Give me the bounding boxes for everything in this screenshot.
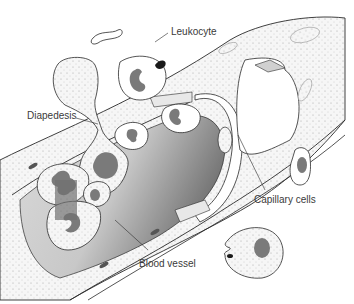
- floating-fragment: [91, 30, 122, 45]
- leader-leukocyte: [155, 33, 168, 42]
- leukocyte-bottom-right: [224, 228, 283, 279]
- lumen-dark-band: [55, 180, 77, 220]
- label-diapedesis: Diapedesis: [27, 110, 76, 121]
- leukocyte-lumen-2: [115, 122, 148, 149]
- leukocyte-free: [118, 56, 166, 100]
- label-leukocyte: Leukocyte: [171, 26, 217, 37]
- capillary-cell-nucleus: [218, 127, 232, 153]
- label-capillary-cells: Capillary cells: [254, 194, 316, 205]
- label-blood-vessel: Blood vessel: [139, 258, 196, 269]
- leukocyte-lumen-3: [162, 104, 201, 133]
